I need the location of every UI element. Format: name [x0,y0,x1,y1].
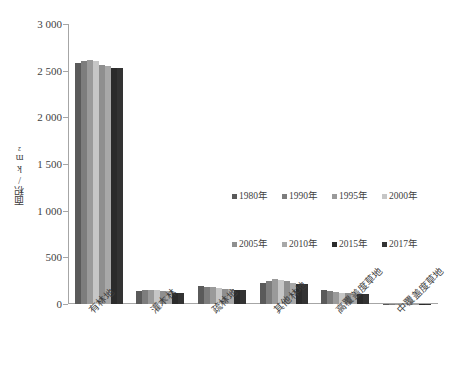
y-axis-tick-label: 1 500 [37,159,62,170]
legend-swatch-icon [232,194,237,199]
bar-group [130,24,192,304]
legend-label: 1990年 [289,191,318,201]
bar-chart: 面积/km² 05001 0001 5002 0002 5003 000 有林地… [0,0,455,382]
legend-item[interactable]: 2005年 [232,220,282,268]
legend-item[interactable]: 2000年 [382,172,432,220]
legend-item[interactable]: 2017年 [382,220,432,268]
legend-label: 2010年 [289,239,318,249]
legend-item[interactable]: 1980年 [232,172,282,220]
bar [363,294,369,304]
legend-swatch-icon [232,242,237,247]
legend-item[interactable]: 2010年 [282,220,332,268]
legend-item[interactable]: 2015年 [332,220,382,268]
bar [240,290,246,304]
legend-item[interactable]: 1995年 [332,172,382,220]
bar [117,68,123,304]
y-axis-tick-label: 3 000 [37,19,62,30]
legend-label: 1995年 [339,191,368,201]
chart-legend: 1980年1990年1995年2000年2005年2010年2015年2017年 [232,172,432,268]
legend-label: 2000年 [389,191,418,201]
bar-group [68,24,130,304]
y-axis-tick-label: 0 [57,299,63,310]
legend-item[interactable]: 1990年 [282,172,332,220]
legend-swatch-icon [282,194,287,199]
legend-swatch-icon [382,194,387,199]
y-axis-tick-label: 500 [46,252,63,263]
legend-swatch-icon [282,242,287,247]
bar [178,293,184,304]
legend-label: 1980年 [239,191,268,201]
legend-label: 2015年 [339,239,368,249]
legend-label: 2005年 [239,239,268,249]
y-axis-tick-label: 2 000 [37,112,62,123]
legend-swatch-icon [332,242,337,247]
y-axis-tick-label: 1 000 [37,205,62,216]
y-axis-tick-mark [63,304,68,305]
legend-swatch-icon [382,242,387,247]
legend-label: 2017年 [389,239,418,249]
y-axis-tick-label: 2 500 [37,65,62,76]
legend-swatch-icon [332,194,337,199]
y-axis-title: 面积/km² [14,142,25,206]
